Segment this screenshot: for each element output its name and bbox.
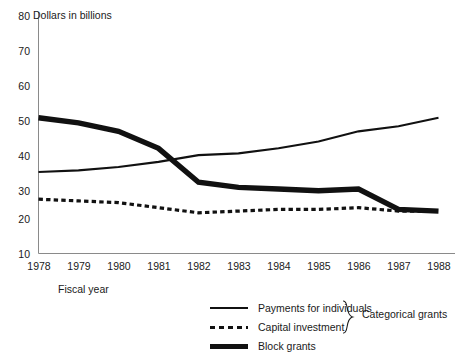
- x-tick-label-1984: 1984: [259, 261, 299, 272]
- x-tick-label-1982: 1982: [179, 261, 219, 272]
- x-tick-label-1985: 1985: [299, 261, 339, 272]
- legend-group-label: Categorical grants: [362, 308, 447, 320]
- y-tick-label-50: 50: [6, 116, 30, 127]
- x-tick-label-1983: 1983: [219, 261, 259, 272]
- y-tick-label-80: 80: [6, 11, 30, 22]
- x-tick-label-1986: 1986: [339, 261, 379, 272]
- legend-swatch-solid-thick-icon: [210, 340, 248, 352]
- legend-label-capital-investment: Capital investment: [258, 321, 344, 333]
- y-tick-label-70: 70: [6, 46, 30, 57]
- x-tick-label-1988: 1988: [419, 261, 459, 272]
- x-axis-title: Fiscal year: [58, 283, 109, 295]
- x-tick-label-1978: 1978: [19, 261, 59, 272]
- x-tick-label-1979: 1979: [59, 261, 99, 272]
- y-tick-label-20: 20: [6, 214, 30, 225]
- y-tick-label-10: 10: [6, 249, 30, 260]
- y-tick-label-40: 40: [6, 151, 30, 162]
- y-tick-label-30: 30: [6, 186, 30, 197]
- brace-icon: [342, 300, 358, 334]
- x-tick-label-1981: 1981: [139, 261, 179, 272]
- chart-figure: Dollars in billions Fiscal year 80 70 60…: [0, 0, 476, 357]
- legend-swatch-dotted-icon: [210, 321, 248, 333]
- x-tick-label-1980: 1980: [99, 261, 139, 272]
- series-line-block-grants: [39, 118, 439, 211]
- legend-item-block-grants: Block grants: [210, 338, 316, 354]
- series-layer: [39, 118, 439, 213]
- legend-item-capital-investment: Capital investment: [210, 319, 344, 335]
- y-axis-title: Dollars in billions: [33, 9, 112, 21]
- y-tick-label-60: 60: [6, 81, 30, 92]
- legend-label-block-grants: Block grants: [258, 340, 316, 352]
- x-tick-label-1987: 1987: [379, 261, 419, 272]
- chart-legend: Payments for individuals Capital investm…: [210, 300, 476, 355]
- legend-swatch-solid-thin-icon: [210, 302, 248, 314]
